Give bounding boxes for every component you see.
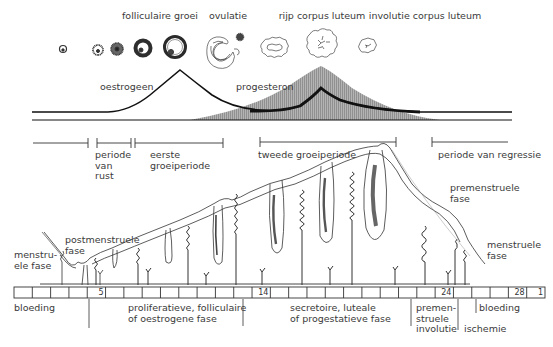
label-menstruele-fase-right: menstruele fase bbox=[487, 240, 541, 261]
period-bar-regressie bbox=[432, 137, 508, 147]
early-corpus-luteum-icon bbox=[261, 37, 289, 57]
label-line: postmenstruele bbox=[65, 235, 140, 246]
label-bloeding-end: bloeding bbox=[479, 303, 520, 314]
label-line: premen- bbox=[416, 303, 457, 314]
label-tweede-groeiperiode: tweede groeiperiode bbox=[258, 150, 356, 161]
primordial-follicle-icon bbox=[60, 46, 67, 53]
label-premenstruele-fase: premenstruele fase bbox=[450, 183, 520, 204]
label-progesteron: progesteron bbox=[236, 82, 293, 93]
label-periode-van-regressie: periode van regressie bbox=[438, 150, 541, 161]
ovulation-icon bbox=[207, 34, 244, 69]
label-line: of oestrogene fase bbox=[128, 314, 246, 325]
label-line: periode bbox=[95, 150, 131, 161]
day-number-24: 24 bbox=[441, 288, 451, 297]
label-ischemie: ischemie bbox=[464, 324, 506, 335]
period-bars bbox=[33, 137, 508, 148]
label-line: menstruele bbox=[487, 240, 541, 251]
label-line: groeiperiode bbox=[150, 161, 210, 172]
period-bar-menstrual bbox=[33, 138, 88, 148]
day-number-28: 28 bbox=[515, 288, 525, 297]
label-proliferatieve-fase: proliferatieve, folliculaire of oestroge… bbox=[128, 303, 246, 324]
hormone-chart bbox=[32, 66, 512, 120]
graafian-follicle-icon bbox=[165, 37, 186, 58]
label-line: eerste bbox=[150, 150, 210, 161]
label-premenstruele-involutie: premen- struele involutie bbox=[416, 303, 457, 335]
mature-corpus-luteum-icon bbox=[307, 29, 338, 58]
day-timeline bbox=[14, 287, 545, 298]
label-line: rust bbox=[95, 171, 131, 182]
cycle-diagram bbox=[0, 0, 553, 347]
label-line: premenstruele bbox=[450, 183, 520, 194]
day-number-1: 1 bbox=[538, 288, 543, 297]
secondary-follicle-icon bbox=[111, 43, 123, 55]
label-postmenstruele-fase: postmenstruele fase bbox=[65, 235, 140, 256]
label-eerste-groeiperiode: eerste groeiperiode bbox=[150, 150, 210, 171]
label-secretoire-fase: secretoire, luteale of progestatieve fas… bbox=[290, 303, 391, 324]
period-bar-rust bbox=[97, 138, 131, 148]
primary-follicle-icon bbox=[93, 45, 103, 55]
label-line: proliferatieve, folliculaire bbox=[128, 303, 246, 314]
period-bar-eerste-groei bbox=[135, 138, 223, 148]
label-oestrogeen: oestrogeen bbox=[100, 82, 154, 93]
label-periode-van-rust: periode van rust bbox=[95, 150, 131, 182]
label-line: menstru- bbox=[14, 250, 57, 261]
antral-follicle-icon bbox=[136, 41, 151, 56]
period-bar-tweede-groei bbox=[260, 137, 396, 147]
follicle-icons bbox=[60, 29, 377, 69]
label-line: fase bbox=[450, 194, 520, 205]
label-line: secretoire, luteale bbox=[290, 303, 391, 314]
involution-corpus-luteum-icon bbox=[359, 38, 377, 53]
label-line: of progestatieve fase bbox=[290, 314, 391, 325]
day-number-14: 14 bbox=[258, 288, 268, 297]
label-line: fase bbox=[487, 251, 541, 262]
label-line: involutie bbox=[416, 324, 457, 335]
day-number-5: 5 bbox=[98, 288, 103, 297]
label-line: fase bbox=[65, 246, 140, 257]
label-line: ele fase bbox=[14, 261, 57, 272]
label-bloeding-start: bloeding bbox=[14, 303, 55, 314]
spiral-arteries bbox=[95, 172, 467, 285]
label-menstruele-fase-left: menstru- ele fase bbox=[14, 250, 57, 271]
